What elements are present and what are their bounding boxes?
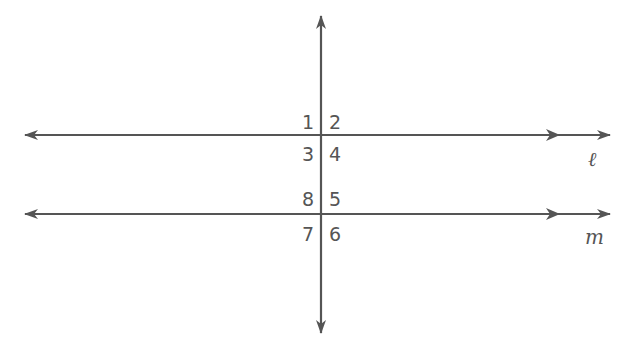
angle-6-label: 6 [329, 223, 341, 245]
angle-8-label: 8 [302, 188, 314, 210]
angle-7-label: 7 [302, 223, 314, 245]
line-l [25, 129, 610, 141]
angle-2-label: 2 [329, 111, 341, 133]
line-m [25, 208, 610, 220]
angle-1-label: 1 [302, 111, 314, 133]
line-m-label: m [585, 225, 604, 249]
line-l-label: ℓ [588, 147, 597, 171]
angle-4-label: 4 [329, 143, 341, 165]
angle-5-label: 5 [329, 188, 341, 210]
angle-3-label: 3 [302, 143, 314, 165]
diagram-canvas: ℓ m 1 2 3 4 5 6 7 8 [0, 0, 623, 346]
